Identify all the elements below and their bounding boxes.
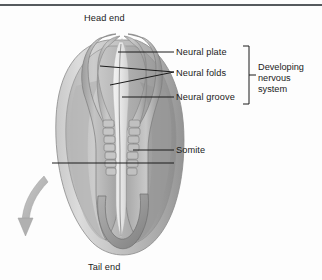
rotation-arrow [18,176,48,236]
label-developing-nervous-system: Developing nervous system [258,62,304,96]
label-somite: Somite [176,145,205,155]
group-label-line-3: system [258,84,304,95]
label-tail-end: Tail end [88,262,120,272]
developing-nervous-system-bracket [243,46,256,104]
embryo-diagram [0,0,322,280]
group-label-line-1: Developing [258,62,304,73]
label-neural-plate: Neural plate [176,47,227,57]
group-label-line-2: nervous [258,73,304,84]
figure-container: Head end Tail end Neural plate Neural fo… [0,0,322,280]
label-head-end: Head end [84,13,125,23]
label-neural-folds: Neural folds [176,68,226,78]
label-neural-groove: Neural groove [176,92,235,102]
